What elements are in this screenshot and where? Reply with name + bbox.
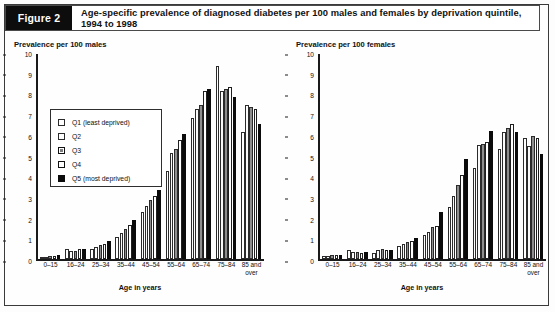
- legend-swatch-icon-q1: [58, 119, 65, 126]
- y-tick-mark-icon: [3, 240, 7, 241]
- bar-group: [496, 54, 521, 259]
- y-tick-label: 0: [288, 258, 318, 265]
- y-tick-mark-icon: [285, 199, 289, 200]
- bar-q4: [435, 226, 439, 260]
- bar-q2: [145, 206, 149, 259]
- panel-title-female: Prevalence per 100 females: [296, 40, 395, 49]
- bar-q1: [241, 132, 245, 259]
- bar-q2: [427, 232, 431, 260]
- x-tick-label: 0–15: [38, 261, 63, 276]
- bar-q4: [360, 253, 364, 259]
- bar-q4: [103, 244, 107, 259]
- y-tick-label: 2: [6, 216, 36, 223]
- bar-groups-female: [320, 54, 546, 259]
- chart-panel-male: Prevalence per 100 males 012345678910 0–…: [6, 40, 274, 302]
- y-tick-mark-icon: [3, 54, 7, 55]
- bar-group: [239, 54, 264, 259]
- y-tick-mark-icon: [285, 75, 289, 76]
- bar-q1: [141, 212, 145, 259]
- bar-q2: [477, 145, 481, 259]
- bar-q5: [132, 220, 136, 259]
- x-tick-label: 35–44: [395, 261, 420, 276]
- bar-q5: [339, 255, 343, 259]
- x-tick-label: 55–64: [446, 261, 471, 276]
- bar-group: [446, 54, 471, 259]
- x-axis-title-female: Age in years: [288, 283, 555, 292]
- figure-header: Figure 2 Age-specific prevalence of diag…: [5, 5, 540, 31]
- y-tick-mark-icon: [3, 116, 7, 117]
- bar-q4: [78, 249, 82, 259]
- bar-group: [471, 54, 496, 259]
- chart-panel-female: Prevalence per 100 females 012345678910 …: [288, 40, 555, 302]
- bar-q1: [498, 149, 502, 260]
- bar-q5: [82, 249, 86, 259]
- bar-group: [370, 54, 395, 259]
- bar-q4: [460, 175, 464, 259]
- bar-group: [420, 54, 445, 259]
- legend-swatch-icon-q2: [58, 133, 65, 140]
- bar-q4: [410, 241, 414, 259]
- bar-q1: [65, 249, 69, 259]
- bar-q3: [149, 200, 153, 260]
- bar-q4: [510, 124, 514, 260]
- y-tick-label: 3: [6, 195, 36, 202]
- bar-q5: [439, 212, 443, 259]
- x-tick-label: 0–15: [320, 261, 345, 276]
- bar-q3: [381, 249, 385, 259]
- y-tick-mark-icon: [285, 95, 289, 96]
- bar-q5: [515, 132, 519, 259]
- x-tick-label: 85 andover: [239, 261, 264, 276]
- y-tick-mark-icon: [285, 116, 289, 117]
- y-tick-label: 5: [288, 154, 318, 161]
- x-tick-label: 16–24: [63, 261, 88, 276]
- bar-q5: [107, 241, 111, 259]
- figure-page: Figure 2 Age-specific prevalence of diag…: [0, 0, 555, 312]
- y-tick-mark-icon: [3, 158, 7, 159]
- bar-q3: [48, 256, 52, 259]
- y-tick-label: 8: [288, 92, 318, 99]
- y-tick-label: 6: [6, 133, 36, 140]
- y-tick-label: 6: [288, 133, 318, 140]
- bar-q4: [178, 140, 182, 259]
- y-tick-label: 9: [288, 71, 318, 78]
- figure-title: Age-specific prevalence of diagnosed dia…: [72, 6, 539, 30]
- bar-group: [189, 54, 214, 259]
- bar-q1: [473, 168, 477, 259]
- bar-q3: [330, 255, 334, 259]
- bar-q4: [53, 256, 57, 259]
- bar-q5: [540, 154, 544, 260]
- plot-area-female: 012345678910: [318, 54, 546, 261]
- bar-q5: [414, 238, 418, 260]
- y-tick-label: 10: [6, 51, 36, 58]
- bar-q1: [166, 171, 170, 259]
- y-tick-mark-icon: [3, 220, 7, 221]
- legend-item-label: Q2: [72, 133, 81, 140]
- y-tick-mark-icon: [285, 158, 289, 159]
- bar-q3: [124, 229, 128, 260]
- bar-q3: [456, 185, 460, 259]
- x-tick-label: 85 andover: [521, 261, 546, 276]
- bar-q3: [224, 89, 228, 259]
- bar-q4: [128, 225, 132, 260]
- bar-q1: [191, 118, 195, 260]
- bar-q5: [57, 255, 61, 259]
- x-tick-label: 45–54: [420, 261, 445, 276]
- bar-q2: [69, 251, 73, 259]
- y-tick-label: 8: [6, 92, 36, 99]
- y-tick-mark-icon: [285, 137, 289, 138]
- bar-q4: [254, 109, 258, 259]
- y-tick-mark-icon: [3, 261, 7, 262]
- bar-q3: [431, 227, 435, 260]
- y-tick-mark-icon: [3, 199, 7, 200]
- y-tick-mark-icon: [285, 261, 289, 262]
- x-tick-label: 45–54: [138, 261, 163, 276]
- y-tick-mark-icon: [285, 220, 289, 221]
- x-tick-label: 25–34: [88, 261, 113, 276]
- x-tick-label: 35–44: [113, 261, 138, 276]
- x-axis-title-male: Age in years: [6, 283, 274, 292]
- bar-q1: [347, 250, 351, 259]
- legend-item-q4: Q4: [58, 158, 161, 172]
- bar-q2: [502, 132, 506, 259]
- bar-q2: [44, 257, 48, 259]
- bar-q4: [203, 91, 207, 259]
